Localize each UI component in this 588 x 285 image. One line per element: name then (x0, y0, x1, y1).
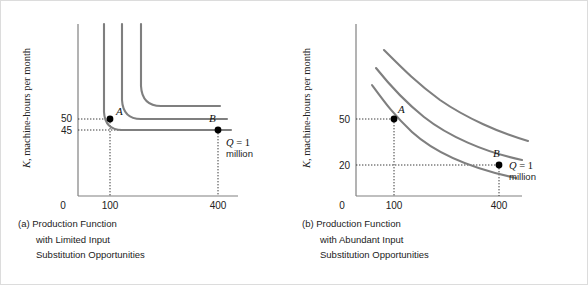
panel-b-y-axis-label: K, machine-hours per month (301, 47, 312, 169)
figure-root: K, machine-hours per month A B Q = 1 (0, 0, 588, 285)
panel-a-xtick-400: 400 (210, 200, 227, 211)
panel-a-xtick-0: 0 (60, 200, 66, 211)
panel-b-caption-line1: (b) Production Function (302, 216, 564, 232)
panel-b-ytick-50: 50 (339, 114, 351, 125)
panel-b-isoquant-label-line2: million (509, 171, 536, 182)
panel-b-plot: K, machine-hours per month A B Q = 1 (294, 0, 588, 216)
panel-b-xtick-100: 100 (386, 200, 403, 211)
panel-b-point-a-label: A (397, 103, 405, 115)
panel-a-caption: (a) Production Function with Limited Inp… (18, 216, 280, 263)
panel-a-caption-line2: with Limited Input (18, 232, 280, 248)
panel-b-caption-line3: Substitution Opportunities (302, 247, 564, 263)
panel-a-isoquant-middle (122, 24, 227, 119)
panel-b-ytick-20: 20 (339, 160, 351, 171)
panel-a-isoquant-label-line2: million (226, 148, 253, 159)
panel-b-caption: (b) Production Function with Abundant In… (302, 216, 564, 263)
panel-a-caption-line1: (a) Production Function (18, 216, 280, 232)
panel-a-limited-substitution: K, machine-hours per month A B Q = 1 (0, 0, 294, 285)
panel-a-ytick-45: 45 (61, 125, 73, 136)
panel-a-isoquant-upper (141, 24, 220, 106)
panel-a-plot: K, machine-hours per month A B Q = 1 (0, 0, 294, 216)
panel-a-xtick-100: 100 (102, 200, 119, 211)
panel-b-point-a (391, 116, 398, 123)
panel-a-ytick-50: 50 (61, 113, 73, 124)
panel-b-point-b-label: B (493, 147, 500, 159)
panel-a-point-b (215, 127, 222, 134)
panel-a-point-a (107, 116, 114, 123)
panel-a-isoquant-label-line1: Q = 1 (226, 137, 250, 148)
panel-b-xtick-400: 400 (491, 200, 508, 211)
panel-a-y-axis-label: K, machine-hours per month (21, 47, 32, 169)
panel-b-point-b (496, 162, 503, 169)
panel-b-isoquant-upper (384, 50, 528, 141)
panel-a-point-a-label: A (115, 105, 123, 117)
panel-b-caption-line2: with Abundant Input (302, 232, 564, 248)
panel-a-point-b-label: B (209, 112, 216, 124)
panel-b-isoquant-label-line1: Q = 1 (509, 160, 533, 171)
panel-a-caption-line3: Substitution Opportunities (18, 247, 280, 263)
panel-b-abundant-substitution: K, machine-hours per month A B Q = 1 (294, 0, 588, 285)
panel-b-xtick-0: 0 (339, 200, 345, 211)
